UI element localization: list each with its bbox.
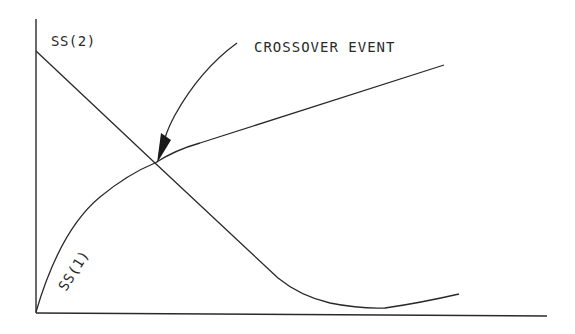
- ss1-label: SS(1): [55, 247, 92, 293]
- crossover-diagram: SS(2) CROSSOVER EVENT SS(1): [0, 0, 575, 334]
- crossover-arrow-shaft: [165, 43, 237, 138]
- arrow-head-icon: [157, 133, 171, 163]
- ss2-label: SS(2): [51, 33, 96, 49]
- ss1-curve: [36, 65, 444, 312]
- crossover-event-label: CROSSOVER EVENT: [254, 39, 395, 55]
- x-axis: [36, 313, 547, 316]
- ss2-curve: [36, 51, 459, 308]
